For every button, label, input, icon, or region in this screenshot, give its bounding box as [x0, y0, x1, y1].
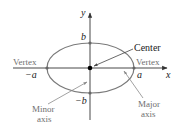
top-point-label: b: [81, 31, 86, 42]
left-point-label: −a: [25, 69, 37, 80]
y-axis-label: y: [80, 7, 86, 18]
major-axis-label-line1: Major: [138, 99, 160, 109]
vertex-left-label: Vertex: [13, 57, 37, 67]
vertex-right-label: Vertex: [136, 57, 160, 67]
center-dot: [88, 66, 93, 71]
bottom-point: [88, 91, 91, 94]
right-point-label: a: [137, 69, 142, 80]
minor-axis-label-line2: axis: [37, 114, 52, 124]
vertex-left-point: [45, 66, 48, 69]
minor-axis-label-line1: Minor: [32, 104, 55, 114]
top-point: [88, 41, 91, 44]
bottom-point-label: −b: [75, 95, 87, 106]
x-axis-label: x: [165, 69, 171, 80]
center-pointer-arrow: [94, 49, 133, 66]
ellipse-diagram: y x b −b −a a Center Vertex Vertex Minor…: [0, 0, 179, 136]
major-axis-label-line2: axis: [141, 109, 156, 119]
center-label: Center: [134, 42, 161, 53]
